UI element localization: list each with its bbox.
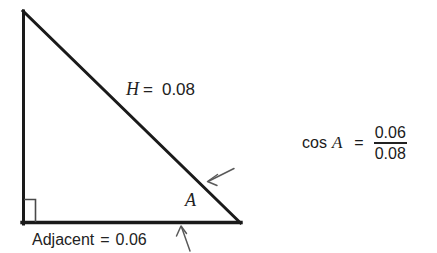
triangle-hypotenuse [23, 11, 241, 223]
cosine-ratio-fraction: 0.06 0.08 [374, 124, 407, 162]
cosine-equation: cos A = 0.06 0.08 [302, 124, 407, 162]
cosine-angle-variable: A [332, 133, 342, 153]
adjacent-equals-sign: = [100, 231, 109, 248]
hypotenuse-equals-sign: = [143, 80, 153, 99]
hypotenuse-value: 0.08 [162, 80, 195, 99]
hypotenuse-pointer-arrow-icon [208, 169, 235, 186]
fraction-denominator: 0.08 [374, 144, 407, 162]
right-angle-marker-icon [24, 200, 36, 223]
hypotenuse-variable: H [126, 79, 139, 99]
fraction-numerator: 0.06 [374, 124, 407, 142]
cosine-function-name: cos [302, 134, 327, 152]
adjacent-label: Adjacent=0.06 [32, 232, 147, 248]
angle-label-a: A [185, 191, 196, 209]
adjacent-value: 0.06 [116, 231, 147, 248]
figure-canvas: H=0.08 A Adjacent=0.06 cos A = 0.06 0.08 [0, 0, 437, 253]
hypotenuse-label: H=0.08 [126, 80, 195, 98]
adjacent-name: Adjacent [32, 231, 94, 248]
adjacent-pointer-arrow-icon [177, 226, 191, 251]
cosine-equals-sign: = [354, 134, 363, 152]
